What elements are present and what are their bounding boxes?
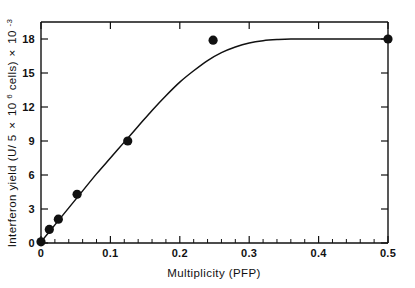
fit-curve (41, 39, 388, 242)
data-point (36, 237, 45, 246)
y-axis-title-exp-1: 6 (5, 94, 14, 99)
x-tick-label: 0.5 (380, 247, 396, 259)
data-point (72, 190, 81, 199)
y-axis-title-base-1: 10 (6, 102, 18, 116)
y-axis-title-base-2: 10 (6, 30, 18, 44)
y-tick-label: 15 (22, 67, 35, 79)
x-tick-label: 0 (38, 247, 44, 259)
x-tick-label: 0.4 (310, 247, 327, 259)
y-axis-major-ticks (41, 39, 48, 243)
figure-container: 00.10.20.30.40.5 0369121518 Multiplicity… (0, 0, 415, 288)
y-tick-label: 0 (29, 237, 35, 249)
x-axis-major-ticks (41, 236, 388, 243)
y-axis-title-exp-2: -3 (5, 18, 14, 26)
x-axis-tick-labels: 00.10.20.30.40.5 (38, 247, 396, 259)
axes-frame (41, 22, 388, 243)
y-tick-label: 6 (29, 169, 35, 181)
y-tick-label: 3 (29, 203, 35, 215)
x-tick-label: 0.3 (241, 247, 257, 259)
y-axis-title-part-1: Interferon yield (U/ 5 (6, 134, 18, 247)
data-point (45, 225, 54, 234)
data-point (383, 34, 392, 43)
y-axis-title-times-1: × (6, 122, 18, 129)
data-point-group (36, 34, 392, 246)
data-point (54, 215, 63, 224)
y-axis-right-ticks (381, 39, 388, 243)
data-point (209, 36, 218, 45)
x-tick-label: 0.1 (102, 247, 118, 259)
x-axis-title: Multiplicity (PFP) (167, 267, 260, 279)
y-tick-label: 12 (22, 101, 35, 113)
y-axis-title-times-2: × (6, 49, 18, 56)
y-tick-label: 18 (22, 33, 35, 45)
svg-text:Interferon yield (U/ 5: Interferon yield (U/ 5 × 10 6 cells) × 1… (2, 18, 18, 247)
x-axis-top-ticks (41, 22, 388, 29)
y-tick-label: 9 (29, 135, 35, 147)
y-axis-title: Interferon yield (U/ 5 × 10 6 cells) × 1… (2, 18, 18, 247)
y-axis-tick-labels: 0369121518 (22, 33, 35, 249)
chart-plot: 00.10.20.30.40.5 0369121518 Multiplicity… (0, 0, 415, 288)
data-point (123, 136, 132, 145)
y-axis-title-part-2: cells) (6, 58, 18, 91)
x-tick-label: 0.2 (172, 247, 188, 259)
